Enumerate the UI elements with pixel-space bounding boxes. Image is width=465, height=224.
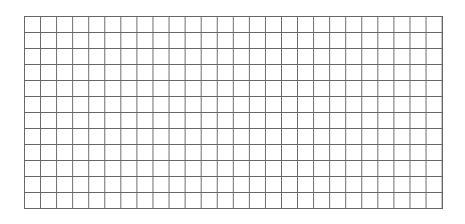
blank-grid [24, 16, 443, 209]
